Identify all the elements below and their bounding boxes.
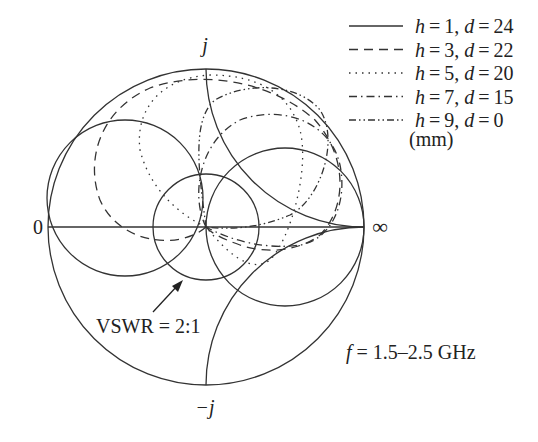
series-h3-d22	[94, 79, 340, 250]
vswr-arrow-shaft	[153, 285, 178, 312]
legend-unit: (mm)	[409, 128, 453, 151]
axis-label-bottom: −j	[195, 396, 214, 419]
smith-chart: j −j 0 ∞ VSWR = 2:1 f = 1.5–2.5 GHz h = …	[0, 0, 538, 442]
legend-label: h = 7, d = 15	[415, 86, 514, 108]
axis-label-right: ∞	[372, 214, 388, 239]
axis-label-left: 0	[33, 216, 43, 238]
frequency-annotation: f = 1.5–2.5 GHz	[346, 341, 476, 364]
axis-label-top: j	[199, 34, 208, 57]
frequency-range: = 1.5–2.5 GHz	[352, 341, 476, 363]
legend-label: h = 3, d = 22	[415, 39, 514, 61]
legend: h = 1, d = 24h = 3, d = 22h = 5, d = 20h…	[349, 15, 514, 151]
series-h9-d0	[199, 88, 328, 229]
legend-label: h = 5, d = 20	[415, 62, 514, 84]
vswr-annotation: VSWR = 2:1	[96, 280, 201, 337]
series-h5-d20	[139, 75, 302, 265]
legend-label: h = 1, d = 24	[415, 15, 514, 37]
series-h1-d24	[47, 120, 203, 276]
vswr-label: VSWR = 2:1	[96, 315, 201, 337]
